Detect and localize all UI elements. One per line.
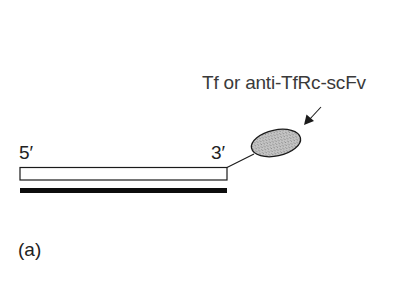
three-prime-label: 3′ [211, 143, 225, 162]
panel-label: (a) [18, 240, 41, 259]
ligand-ellipse [249, 125, 303, 161]
five-prime-label: 5′ [19, 143, 33, 162]
sense-strand [20, 168, 227, 181]
linker-line [227, 154, 254, 168]
antisense-strand [20, 188, 227, 193]
diagram-svg [0, 0, 406, 288]
ligand-label: Tf or anti-TfRc-scFv [202, 73, 366, 92]
pointer-arrow-icon [304, 107, 321, 125]
diagram-canvas: Tf or anti-TfRc-scFv 5′ 3′ (a) [0, 0, 406, 288]
